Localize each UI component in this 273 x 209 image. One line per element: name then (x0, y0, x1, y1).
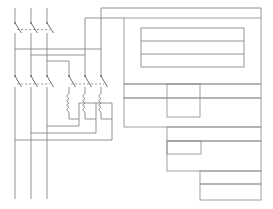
cascade-inset-1 (167, 141, 201, 154)
schematic-canvas: Motor Starter Control Schematic (0, 0, 273, 209)
overload-coil-1 (67, 94, 69, 112)
three-pole-contactor-main (14, 75, 53, 199)
three-pole-contactor-star (68, 75, 107, 94)
cascade-step-1 (167, 127, 261, 141)
inner-row-table (141, 28, 244, 67)
electrical-schematic (0, 0, 273, 209)
panel-feed-lines (85, 8, 261, 55)
cascade-step-4 (200, 184, 261, 200)
disconnect-blade-l1 (15, 23, 22, 33)
bus-bars-group (15, 49, 101, 76)
contactor-main-blade-1 (15, 76, 22, 87)
cascade-step-3 (200, 171, 261, 184)
contactor-star-blade-1 (69, 76, 76, 87)
panel-row-2 (124, 98, 261, 127)
contactor-star-blade-3 (101, 76, 108, 87)
right-panel-assembly (124, 18, 261, 200)
contactor-main-blade-3 (47, 76, 54, 87)
contactor-main-blade-2 (31, 76, 38, 87)
disconnect-blade-l3 (47, 23, 54, 33)
contactor-star-blade-2 (85, 76, 92, 87)
cascade-step-2 (167, 141, 261, 171)
supply-lines-group (15, 8, 47, 23)
overload-output-routing (15, 103, 112, 140)
panel-row-1 (124, 84, 261, 98)
panel-inset-1 (167, 84, 200, 117)
disconnect-blade-l2 (31, 23, 38, 33)
